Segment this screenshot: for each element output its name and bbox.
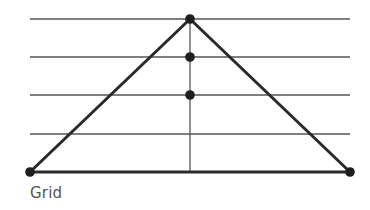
point-apex	[185, 14, 195, 24]
grid-triangle-diagram	[0, 0, 370, 210]
point-mid-upper	[185, 52, 195, 62]
point-base-left	[25, 167, 35, 177]
point-base-right	[345, 167, 355, 177]
diagram-caption: Grid	[30, 184, 62, 202]
point-mid-lower	[185, 90, 195, 100]
